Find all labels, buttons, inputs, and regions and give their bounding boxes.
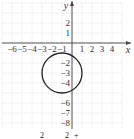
svg-text:x: x <box>125 44 131 55</box>
svg-text:−2: −2 <box>60 58 70 68</box>
svg-text:−4: −4 <box>60 78 70 88</box>
svg-text:4: 4 <box>110 44 115 54</box>
svg-text:−5: −5 <box>17 44 27 54</box>
svg-text:y: y <box>63 0 69 11</box>
svg-text:−2: −2 <box>47 44 57 54</box>
coordinate-plane: −6−5−4−3−2−1123421−2−3−4−6−7−8xy <box>0 0 134 139</box>
svg-text:−8: −8 <box>60 118 70 128</box>
svg-text:−3: −3 <box>60 68 70 78</box>
svg-text:−3: −3 <box>37 44 47 54</box>
svg-text:1: 1 <box>80 44 85 54</box>
svg-text:2: 2 <box>90 44 95 54</box>
svg-text:−4: −4 <box>27 44 37 54</box>
svg-text:3: 3 <box>100 44 105 54</box>
svg-text:2: 2 <box>66 18 71 28</box>
svg-text:1: 1 <box>66 28 71 38</box>
svg-text:−7: −7 <box>60 108 70 118</box>
svg-text:−6: −6 <box>60 98 70 108</box>
svg-text:−6: −6 <box>7 44 17 54</box>
